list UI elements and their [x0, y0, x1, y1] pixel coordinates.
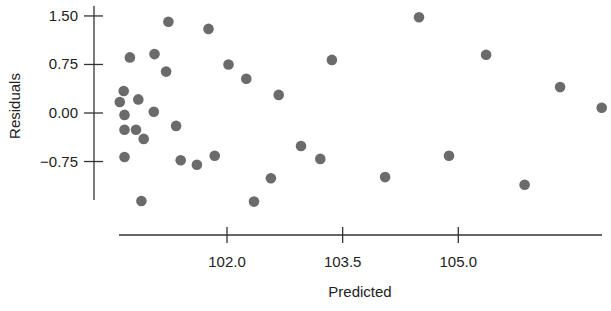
data-point: [596, 103, 607, 114]
data-point: [163, 17, 174, 28]
data-points: [115, 12, 608, 207]
x-tick-label: 102.0: [208, 253, 246, 270]
data-point: [175, 155, 186, 166]
data-point: [315, 154, 326, 165]
data-point: [138, 134, 149, 145]
y-axis: 1.500.750.00−0.75: [40, 6, 103, 200]
data-point: [555, 82, 566, 93]
data-point: [115, 97, 126, 108]
x-axis-title: Predicted: [328, 283, 391, 300]
scatter-chart: 1.500.750.00−0.75 102.0103.5105.0 Predic…: [0, 0, 611, 311]
data-point: [203, 24, 214, 35]
x-axis: 102.0103.5105.0: [119, 227, 602, 270]
data-point: [241, 73, 252, 84]
data-point: [119, 152, 130, 163]
x-tick-label: 105.0: [440, 253, 478, 270]
data-point: [131, 125, 142, 136]
data-point: [273, 90, 284, 101]
data-point: [149, 106, 160, 117]
data-point: [125, 52, 136, 63]
data-point: [209, 150, 220, 161]
x-tick-label: 103.5: [324, 253, 362, 270]
y-tick-label: 0.75: [49, 55, 78, 72]
x-axis-ticks: 102.0103.5105.0: [208, 227, 477, 270]
data-point: [223, 59, 234, 70]
data-point: [414, 12, 425, 23]
data-point: [119, 110, 130, 121]
data-point: [118, 86, 129, 97]
y-tick-label: 0.00: [49, 104, 78, 121]
data-point: [136, 196, 147, 207]
data-point: [481, 50, 492, 61]
data-point: [519, 180, 530, 191]
data-point: [296, 141, 307, 152]
data-point: [133, 94, 144, 105]
y-tick-label: −0.75: [40, 153, 78, 170]
data-point: [444, 150, 455, 161]
data-point: [119, 125, 130, 136]
data-point: [192, 160, 203, 171]
y-tick-label: 1.50: [49, 7, 78, 24]
data-point: [327, 55, 338, 66]
data-point: [171, 121, 182, 132]
data-point: [149, 49, 160, 60]
data-point: [249, 196, 260, 207]
y-axis-title: Residuals: [6, 73, 23, 139]
data-point: [266, 173, 277, 184]
data-point: [161, 66, 172, 77]
data-point: [380, 172, 391, 183]
